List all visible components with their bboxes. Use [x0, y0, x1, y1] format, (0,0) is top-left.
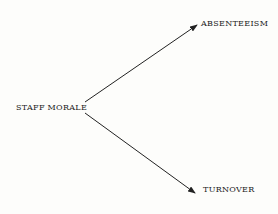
node-absenteeism: ABSENTEEISM [201, 19, 268, 28]
arrow-morale-to-absenteeism [85, 25, 197, 102]
node-staff-morale: STAFF MORALE [16, 103, 87, 112]
arrow-morale-to-turnover [85, 113, 195, 193]
node-turnover: TURNOVER [203, 185, 255, 194]
